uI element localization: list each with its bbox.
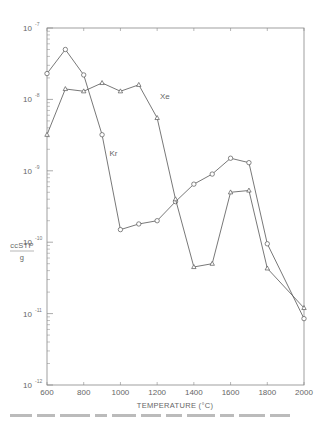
svg-text:-9: -9 <box>35 164 40 170</box>
svg-text:10: 10 <box>23 167 32 176</box>
data-series: KrXe <box>45 47 306 321</box>
x-tick-label: 1200 <box>148 388 166 397</box>
x-tick-label: 2000 <box>295 388 313 397</box>
triangle-marker <box>173 197 177 201</box>
x-tick-label: 600 <box>40 388 54 397</box>
y-tick-label: 10-9 <box>23 164 40 176</box>
triangle-marker <box>265 266 269 270</box>
x-tick-label: 1000 <box>112 388 130 397</box>
x-tick-label: 800 <box>77 388 91 397</box>
y-axis-title-denominator: g <box>20 253 24 262</box>
triangle-marker <box>155 116 159 120</box>
svg-text:-10: -10 <box>35 235 42 241</box>
triangle-marker <box>45 132 49 136</box>
x-tick-label: 1400 <box>185 388 203 397</box>
svg-text:10: 10 <box>23 381 32 390</box>
x-axis: 600800100012001400160018002000 <box>40 28 313 397</box>
circle-marker <box>302 316 306 320</box>
circle-marker <box>210 172 214 176</box>
x-tick-label: 1600 <box>222 388 240 397</box>
series-xe: Xe <box>45 81 306 310</box>
circle-marker <box>155 219 159 223</box>
triangle-marker <box>100 81 104 85</box>
y-tick-label: 10-8 <box>23 92 40 104</box>
circle-marker <box>82 73 86 77</box>
y-axis: 10-710-810-910-1010-1110-12 <box>23 21 53 390</box>
svg-text:10: 10 <box>23 95 32 104</box>
circle-marker <box>228 156 232 160</box>
series-kr: Kr <box>45 47 306 321</box>
circle-marker <box>137 222 141 226</box>
y-tick-label: 10-11 <box>23 307 42 319</box>
y-tick-label: 10-7 <box>23 21 40 33</box>
svg-text:10: 10 <box>23 24 32 33</box>
circle-marker <box>118 227 122 231</box>
log-line-chart: 10-710-810-910-1010-1110-12 600800100012… <box>0 0 326 423</box>
svg-text:-11: -11 <box>35 307 42 313</box>
circle-marker <box>100 133 104 137</box>
cut-off-caption-line <box>10 414 316 419</box>
triangle-marker <box>137 82 141 86</box>
circle-marker <box>247 160 251 164</box>
triangle-marker <box>63 87 67 91</box>
series-label-kr: Kr <box>109 149 117 158</box>
y-axis-title: ccSTP g <box>10 241 34 262</box>
y-axis-title-numerator: ccSTP <box>10 241 34 250</box>
triangle-marker <box>210 261 214 265</box>
series-label-xe: Xe <box>160 92 170 101</box>
svg-text:10: 10 <box>23 310 32 319</box>
circle-marker <box>45 71 49 75</box>
triangle-marker <box>247 188 251 192</box>
x-axis-title: TEMPERATURE (°C) <box>137 401 214 410</box>
x-tick-label: 1800 <box>258 388 276 397</box>
svg-text:-7: -7 <box>35 21 40 27</box>
circle-marker <box>265 242 269 246</box>
circle-marker <box>63 47 67 51</box>
circle-marker <box>192 182 196 186</box>
svg-text:-12: -12 <box>35 378 42 384</box>
svg-text:-8: -8 <box>35 92 40 98</box>
